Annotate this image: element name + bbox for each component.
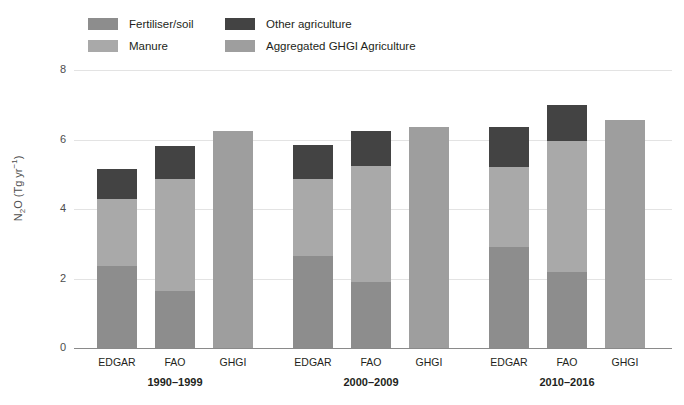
bar-segment <box>351 282 391 348</box>
x-axis-group-label: 2000–2009 <box>271 376 471 388</box>
bar-segment <box>97 266 137 348</box>
x-axis-line <box>74 348 672 349</box>
bar-segment <box>351 166 391 282</box>
chart-plot-area: N2O (Tg yr−1) 86420EDGARFAOGHGI1990–1999… <box>0 0 684 405</box>
y-axis-tick-label: 4 <box>40 203 66 214</box>
bar-segment <box>155 146 195 179</box>
bar-segment <box>155 179 195 290</box>
bar-segment <box>547 141 587 271</box>
bar-ghgi[interactable] <box>213 131 253 348</box>
bar-edgar[interactable] <box>489 127 529 348</box>
bar-segment <box>293 145 333 180</box>
y-axis-tick-label: 6 <box>40 134 66 145</box>
bar-segment <box>351 131 391 166</box>
bar-segment <box>409 127 449 348</box>
bar-segment <box>547 105 587 141</box>
bar-segment <box>605 120 645 348</box>
bar-segment <box>293 256 333 348</box>
bar-edgar[interactable] <box>97 169 137 348</box>
bar-segment <box>97 199 137 267</box>
bar-ghgi[interactable] <box>605 120 645 348</box>
x-axis-tick-label: GHGI <box>198 357 268 368</box>
bar-fao[interactable] <box>155 146 195 348</box>
y-axis-tick-label: 8 <box>40 64 66 75</box>
bar-edgar[interactable] <box>293 145 333 348</box>
bar-fao[interactable] <box>547 105 587 348</box>
bar-segment <box>97 169 137 199</box>
y-axis-tick-label: 0 <box>40 342 66 353</box>
bar-segment <box>155 291 195 348</box>
y-axis-label-text: N2O (Tg yr−1) <box>11 156 23 222</box>
bar-segment <box>293 179 333 255</box>
bar-fao[interactable] <box>351 131 391 348</box>
y-axis-label: N2O (Tg yr−1) <box>10 143 27 233</box>
x-axis-tick-label: GHGI <box>590 357 660 368</box>
bar-segment <box>547 272 587 348</box>
y-axis-tick-label: 2 <box>40 273 66 284</box>
gridline <box>74 70 672 71</box>
x-axis-group-label: 1990–1999 <box>75 376 275 388</box>
bar-segment <box>213 131 253 348</box>
x-axis-group-label: 2010–2016 <box>467 376 667 388</box>
bar-segment <box>489 247 529 348</box>
bar-ghgi[interactable] <box>409 127 449 348</box>
x-axis-tick-label: GHGI <box>394 357 464 368</box>
bar-segment <box>489 127 529 167</box>
bar-segment <box>489 167 529 247</box>
